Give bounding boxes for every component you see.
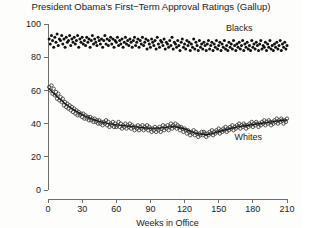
data-point <box>147 39 150 42</box>
data-point <box>65 36 68 39</box>
data-point <box>90 39 93 42</box>
x-axis-title: Weeks in Office <box>136 218 199 228</box>
data-point <box>208 47 211 50</box>
data-point <box>198 39 201 42</box>
y-tick-label: 0 <box>36 185 41 195</box>
data-point <box>49 42 52 45</box>
data-point <box>215 39 218 42</box>
data-point <box>155 47 158 50</box>
data-point <box>91 34 94 37</box>
data-point <box>127 44 130 47</box>
data-point <box>226 49 229 52</box>
data-point <box>93 37 96 40</box>
data-point <box>48 37 51 40</box>
data-point <box>190 42 193 45</box>
data-point <box>163 37 166 40</box>
data-point <box>250 39 253 42</box>
data-point <box>201 47 204 50</box>
data-point <box>283 41 286 44</box>
data-point <box>95 44 98 47</box>
data-point <box>53 36 56 39</box>
data-point <box>179 49 182 52</box>
data-point <box>135 41 138 44</box>
data-point <box>160 41 163 44</box>
data-point <box>184 47 187 50</box>
data-point <box>150 37 153 40</box>
data-point <box>94 41 97 44</box>
data-point <box>246 41 249 44</box>
data-point <box>254 47 257 50</box>
annotation-whites: Whites <box>235 132 263 142</box>
data-point <box>276 47 279 50</box>
series-blacks <box>48 32 289 52</box>
data-point <box>122 46 125 49</box>
data-point <box>102 39 105 42</box>
data-point <box>64 46 67 49</box>
data-point <box>97 36 100 39</box>
data-point <box>223 39 226 42</box>
data-point <box>248 44 251 47</box>
data-point <box>84 44 87 47</box>
data-point <box>52 46 55 49</box>
data-point <box>77 46 80 49</box>
data-point <box>158 46 161 49</box>
data-point <box>193 47 196 50</box>
data-point <box>50 34 53 37</box>
data-point <box>265 49 268 52</box>
data-point <box>141 36 144 39</box>
data-point <box>116 36 119 39</box>
annotation-blacks: Blacks <box>226 23 253 33</box>
data-point <box>168 39 171 42</box>
data-point <box>221 42 224 45</box>
data-point <box>56 32 59 35</box>
data-point <box>216 47 219 50</box>
x-tick-label: 180 <box>245 204 260 214</box>
data-point <box>142 44 145 47</box>
data-point <box>107 44 110 47</box>
data-point <box>57 44 60 47</box>
data-point <box>157 42 160 45</box>
data-point <box>278 44 281 47</box>
data-point <box>202 41 205 44</box>
data-point <box>186 44 189 47</box>
data-point <box>81 36 84 39</box>
data-point <box>133 36 136 39</box>
data-point <box>172 47 175 50</box>
data-point <box>152 44 155 47</box>
data-point <box>166 42 169 45</box>
data-series <box>47 32 288 138</box>
data-point <box>239 47 242 50</box>
data-point <box>59 39 62 42</box>
data-point <box>225 44 228 47</box>
data-point <box>73 36 76 39</box>
data-point <box>75 39 78 42</box>
data-point <box>177 44 180 47</box>
data-point <box>86 41 89 44</box>
data-point <box>194 41 197 44</box>
data-point <box>76 34 79 37</box>
data-point <box>134 44 137 47</box>
x-tick-label: 60 <box>111 204 121 214</box>
data-point <box>131 46 134 49</box>
y-tick-label: 80 <box>31 52 41 62</box>
data-point <box>183 42 186 45</box>
data-point <box>181 37 184 40</box>
data-point <box>68 34 71 37</box>
data-point <box>119 42 122 45</box>
data-point <box>115 41 118 44</box>
data-point <box>54 41 57 44</box>
data-point <box>275 41 278 44</box>
data-point <box>219 49 222 52</box>
data-point <box>192 37 195 40</box>
data-point <box>259 39 262 42</box>
data-point <box>212 49 215 52</box>
data-point <box>148 42 151 45</box>
data-point <box>60 34 63 37</box>
data-point <box>161 44 164 47</box>
x-tick-label: 120 <box>177 204 192 214</box>
data-point <box>52 87 55 90</box>
data-point <box>171 36 174 39</box>
data-point <box>268 39 271 42</box>
data-point <box>241 39 244 42</box>
series-whites <box>47 84 288 139</box>
